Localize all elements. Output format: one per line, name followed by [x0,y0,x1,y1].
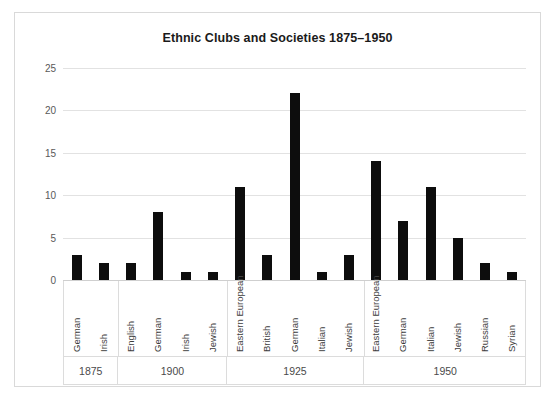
y-axis-tick-label: 0 [50,275,56,286]
category-label-italian: Italian [316,327,327,352]
category-label-german: German [397,318,408,352]
category-axis: GermanIrishEnglishGermanIrishJewishEaste… [63,281,526,357]
category-label-jewish: Jewish [207,323,218,352]
category-label-eastern-european: Eastern European [370,275,381,352]
category-label-eastern-european: Eastern European [234,275,245,352]
group-separator [364,281,365,356]
group-label-1875: 1875 [64,357,118,384]
group-label-1950: 1950 [364,357,527,384]
category-label-english: English [125,321,136,352]
category-label-irish: Irish [98,334,109,352]
category-label-german: German [289,318,300,352]
bars-layer [63,68,526,280]
plot-area: 0510152025 [63,68,526,280]
bar-1950-jewish [453,238,463,280]
category-label-russian: Russian [479,318,490,352]
category-label-german: German [152,318,163,352]
bar-1875-german [72,255,82,280]
bar-1925-italian [317,272,327,280]
category-label-british: British [261,326,272,352]
chart-title: Ethnic Clubs and Societies 1875–1950 [15,31,540,45]
category-label-jewish: Jewish [452,323,463,352]
y-axis-tick-label: 25 [45,63,56,74]
bar-1950-eastern-european [371,161,381,280]
category-label-german: German [71,318,82,352]
group-separator [118,281,119,356]
bar-1925-eastern-european [235,187,245,280]
group-separator [227,281,228,356]
bar-1900-irish [181,272,191,280]
bar-1925-jewish [344,255,354,280]
bar-1950-russian [480,263,490,280]
category-label-irish: Irish [180,334,191,352]
group-label-1900: 1900 [118,357,227,384]
bar-1875-irish [99,263,109,280]
bar-1900-german [153,212,163,280]
y-axis-tick-label: 20 [45,105,56,116]
bar-1925-british [262,255,272,280]
y-axis-tick-label: 15 [45,147,56,158]
category-label-jewish: Jewish [343,323,354,352]
category-label-italian: Italian [425,327,436,352]
y-axis-tick-label: 5 [50,232,56,243]
bar-1925-german [290,93,300,280]
bar-1950-syrian [507,272,517,280]
group-axis: 1875190019251950 [63,357,526,385]
bar-1950-german [398,221,408,280]
y-axis-tick-label: 10 [45,190,56,201]
group-label-1925: 1925 [227,357,363,384]
category-label-syrian: Syrian [506,325,517,352]
bar-1950-italian [426,187,436,280]
bar-1900-english [126,263,136,280]
bar-1900-jewish [208,272,218,280]
chart-frame: Ethnic Clubs and Societies 1875–1950 051… [14,12,541,387]
